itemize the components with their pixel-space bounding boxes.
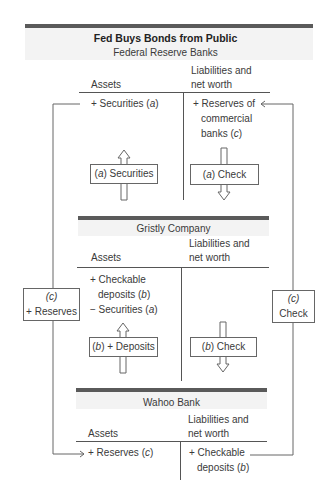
connector-lines — [0, 0, 331, 504]
side-box-c-check: (c) Check — [272, 290, 315, 323]
side-box-c-reserves: (c) + Reserves — [23, 288, 80, 321]
